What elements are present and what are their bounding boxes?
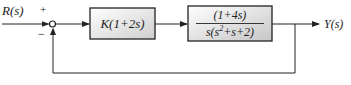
plant-numerator: (1+4s) — [214, 8, 247, 22]
summing-junction — [50, 21, 56, 27]
input-label: R(s) — [1, 3, 24, 18]
minus-sign: − — [38, 27, 45, 41]
block-diagram: R(s) + − K(1+2s) (1+4s) s(s2+s+2) Y(s) — [0, 0, 351, 85]
plant-block: (1+4s) s(s2+s+2) — [188, 6, 272, 41]
plus-sign: + — [40, 3, 46, 15]
output-label: Y(s) — [324, 17, 343, 31]
plant-denominator: s(s2+s+2) — [206, 24, 254, 39]
controller-label: K(1+2s) — [99, 16, 144, 31]
feedback-arrowhead — [50, 28, 56, 36]
controller-block: K(1+2s) — [90, 8, 155, 39]
